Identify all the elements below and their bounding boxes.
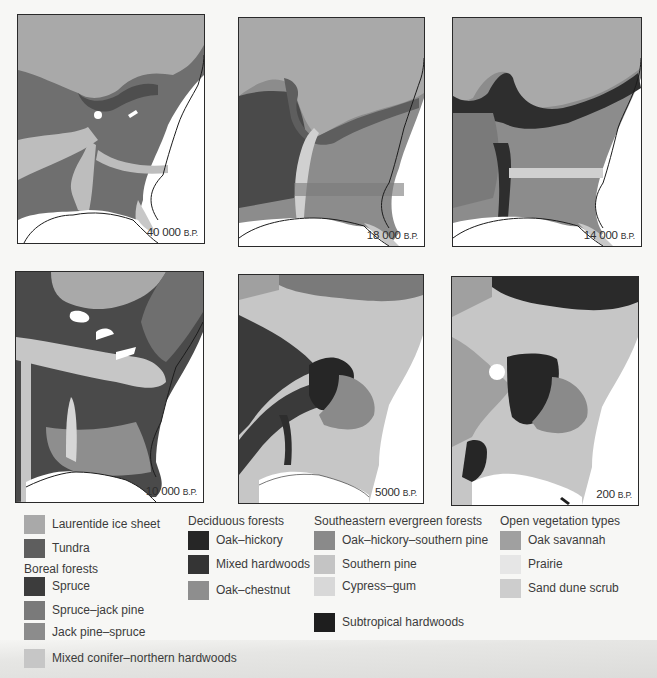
age-value: 40 000 <box>147 226 181 238</box>
legend-swatch <box>188 531 209 550</box>
legend-item-tundra: Tundra <box>24 538 90 558</box>
age-value: 200 <box>596 488 615 500</box>
map-age-label: 14 000 B.P. <box>584 229 635 241</box>
map-age-label: 10 000 B.P. <box>146 485 197 497</box>
legend-swatch <box>314 577 335 596</box>
legend-item-sand-dune-scrub: Sand dune scrub <box>500 578 619 598</box>
legend-item-oak-chestnut: Oak–chestnut <box>188 580 290 600</box>
legend-item-oak-hickory: Oak–hickory <box>188 530 283 550</box>
legend-swatch <box>24 515 45 534</box>
legend-label: Oak–chestnut <box>216 583 290 597</box>
legend-swatch <box>314 555 335 574</box>
legend-heading-open-vegetation-types: Open vegetation types <box>500 514 620 528</box>
legend-swatch <box>24 649 45 668</box>
legend-item-spruce-jack-pine: Spruce–jack pine <box>24 600 144 620</box>
legend-label: Mixed conifer–northern hardwoods <box>52 651 237 665</box>
map-14000-bp: 14 000 B.P. <box>452 17 642 247</box>
legend-item-laurentide-ice-sheet: Laurentide ice sheet <box>24 514 160 534</box>
legend-heading-boreal-forests: Boreal forests <box>24 562 98 576</box>
legend-item-subtropical-hardwoods: Subtropical hardwoods <box>314 612 464 632</box>
legend-item-southern-pine: Southern pine <box>314 554 417 574</box>
vegetation-map-graphic <box>18 15 204 243</box>
vegetation-map-graphic <box>239 275 423 503</box>
map-5000-bp: 5000 B.P. <box>238 274 424 504</box>
map-age-label: 18 000 B.P. <box>367 229 418 241</box>
legend-swatch <box>500 555 521 574</box>
legend-swatch <box>24 601 45 620</box>
legend-label: Sand dune scrub <box>528 581 619 595</box>
legend-item-cypress-gum: Cypress–gum <box>314 576 416 596</box>
legend-swatch <box>24 577 45 596</box>
vegetation-map-graphic <box>452 277 638 505</box>
legend-item-spruce: Spruce <box>24 576 90 596</box>
legend-swatch <box>314 531 335 550</box>
legend-item-oak-savannah: Oak savannah <box>500 530 605 550</box>
age-unit: B.P. <box>184 228 198 238</box>
map-age-label: 40 000 B.P. <box>147 226 198 238</box>
legend-item-jack-pine-spruce: Jack pine–spruce <box>24 622 145 642</box>
legend-heading-deciduous-forests: Deciduous forests <box>188 514 284 528</box>
legend-swatch <box>500 531 521 550</box>
legend-label: Oak–hickory–southern pine <box>342 533 488 547</box>
legend-swatch <box>24 539 45 558</box>
legend-label: Cypress–gum <box>342 579 416 593</box>
legend-item-oak-hickory-southern-pine: Oak–hickory–southern pine <box>314 530 488 550</box>
map-18000-bp: 18 000 B.P. <box>238 17 425 247</box>
legend-label: Oak savannah <box>528 533 605 547</box>
age-unit: B.P. <box>404 231 418 241</box>
legend-label: Prairie <box>528 557 563 571</box>
legend-heading-southeastern-evergreen-forests: Southeastern evergreen forests <box>314 514 482 528</box>
vegetation-map-graphic <box>453 18 641 246</box>
legend-item-mixed-hardwoods: Mixed hardwoods <box>188 554 310 574</box>
legend-label: Subtropical hardwoods <box>342 615 464 629</box>
map-age-label: 200 B.P. <box>596 488 632 500</box>
legend-swatch <box>188 555 209 574</box>
legend-swatch <box>188 581 209 600</box>
map-40000-bp: 40 000 B.P. <box>17 14 205 244</box>
age-value: 18 000 <box>367 229 401 241</box>
legend-swatch <box>500 579 521 598</box>
legend-label: Tundra <box>52 541 90 555</box>
legend-item-prairie: Prairie <box>500 554 563 574</box>
legend-label: Oak–hickory <box>216 533 283 547</box>
vegetation-map-graphic <box>16 272 203 502</box>
legend-item-mixed-conifer-northern-hardwoods: Mixed conifer–northern hardwoods <box>24 648 237 668</box>
vegetation-map-graphic <box>239 18 424 246</box>
map-200-bp: 200 B.P. <box>451 276 639 506</box>
age-unit: B.P. <box>403 488 417 498</box>
legend-label: Mixed hardwoods <box>216 557 310 571</box>
age-unit: B.P. <box>183 487 197 497</box>
age-value: 14 000 <box>584 229 618 241</box>
age-unit: B.P. <box>621 231 635 241</box>
legend-label: Spruce–jack pine <box>52 603 144 617</box>
legend-label: Southern pine <box>342 557 417 571</box>
age-value: 5000 <box>375 486 400 498</box>
legend-label: Jack pine–spruce <box>52 625 145 639</box>
legend-swatch <box>24 623 45 642</box>
map-age-label: 5000 B.P. <box>375 486 417 498</box>
age-unit: B.P. <box>618 490 632 500</box>
legend-swatch <box>314 613 335 632</box>
legend-label: Laurentide ice sheet <box>52 517 160 531</box>
age-value: 10 000 <box>146 485 180 497</box>
legend-label: Spruce <box>52 579 90 593</box>
map-10000-bp: 10 000 B.P. <box>15 271 204 503</box>
